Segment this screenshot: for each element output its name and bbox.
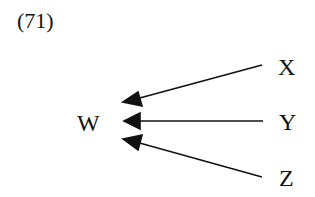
arrow-z-to-w [123,135,262,177]
arrowhead-icon [123,92,142,106]
arrowhead-icon [123,135,142,150]
arrowhead-icon [124,113,140,129]
arrow-x-to-w [123,65,262,106]
arrow-y-to-w [124,113,263,129]
arrow-diagram [0,0,315,197]
